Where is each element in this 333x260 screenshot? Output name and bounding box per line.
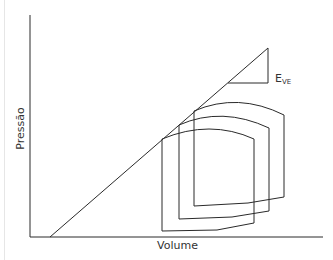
- elastance-label: EVE: [275, 72, 291, 86]
- x-axis-label: Volume: [0, 239, 333, 252]
- elastance-label-main: E: [275, 72, 282, 85]
- elastance-label-sub: VE: [282, 78, 291, 86]
- loop-medium-preload: [179, 116, 269, 219]
- pv-diagram: [0, 0, 333, 260]
- y-axis-label: Pressão: [14, 99, 27, 159]
- elastance-line: [50, 48, 268, 237]
